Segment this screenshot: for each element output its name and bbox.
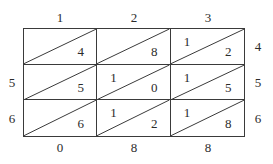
cell-upper-digit-r2c2: 1	[184, 106, 191, 119]
cell-lower-digit-r1c2: 5	[225, 81, 232, 94]
left-label-1: 5	[3, 64, 21, 100]
lattice-cell-r2c0: 6	[24, 100, 97, 136]
diagonal-line-icon	[24, 29, 96, 64]
diagonal-line-icon	[171, 29, 244, 64]
bottom-label-2: 8	[171, 141, 245, 154]
lattice-cell-r1c2: 1 5	[171, 65, 244, 101]
left-label-0	[3, 28, 21, 64]
lattice-cell-r1c1: 1 0	[97, 65, 170, 101]
cell-lower-digit-r2c2: 8	[225, 117, 232, 130]
lattice-cell-r1c0: 5	[24, 65, 97, 101]
lattice-cell-r0c2: 1 2	[171, 29, 244, 65]
lattice-cell-r0c0: 4	[24, 29, 97, 65]
right-labels: 4 5 6	[249, 28, 267, 137]
diagonal-line-icon	[97, 65, 169, 100]
cell-lower-digit-r0c2: 2	[225, 45, 232, 58]
right-label-1: 5	[249, 64, 267, 100]
cell-lower-digit-r2c1: 2	[151, 117, 158, 130]
bottom-label-1: 8	[97, 141, 171, 154]
right-label-0: 4	[249, 28, 267, 64]
cell-lower-digit-r1c0: 5	[78, 81, 85, 94]
left-label-2: 6	[3, 101, 21, 137]
diagonal-line-icon	[24, 65, 96, 100]
diagonal-line-icon	[171, 65, 244, 100]
top-labels: 1 2 3	[23, 11, 245, 24]
cell-upper-digit-r1c1: 1	[110, 71, 117, 84]
cell-lower-digit-r0c1: 8	[151, 45, 158, 58]
cell-lower-digit-r2c0: 6	[78, 117, 85, 130]
lattice-grid-wrapper: 4 8 1 2 5	[23, 28, 245, 137]
diagonal-line-icon	[97, 100, 169, 136]
lattice-cell-r0c1: 8	[97, 29, 170, 65]
diagonal-line-icon	[171, 100, 244, 136]
bottom-labels: 0 8 8	[23, 141, 245, 154]
cell-upper-digit-r2c1: 1	[110, 106, 117, 119]
right-label-2: 6	[249, 101, 267, 137]
bottom-label-0: 0	[23, 141, 97, 154]
cell-upper-digit-r0c2: 1	[184, 35, 191, 48]
lattice-cell-r2c1: 1 2	[97, 100, 170, 136]
top-label-0: 1	[23, 11, 97, 24]
top-label-1: 2	[97, 11, 171, 24]
diagonal-line-icon	[97, 29, 169, 64]
lattice-cell-r2c2: 1 8	[171, 100, 244, 136]
cell-lower-digit-r1c1: 0	[151, 81, 158, 94]
lattice-multiplication-figure: 1 2 3 5 6 4 5 6 0 8 8 4	[0, 0, 273, 164]
diagonal-line-icon	[24, 100, 96, 136]
cell-lower-digit-r0c0: 4	[78, 45, 85, 58]
top-label-2: 3	[171, 11, 245, 24]
left-labels: 5 6	[3, 28, 21, 137]
cell-upper-digit-r1c2: 1	[184, 71, 191, 84]
lattice-grid: 4 8 1 2 5	[23, 28, 245, 137]
